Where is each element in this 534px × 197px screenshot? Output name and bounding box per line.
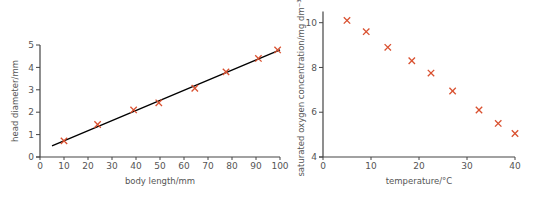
- best-fit-line: [52, 50, 280, 146]
- data-point-x-marker: [61, 138, 67, 144]
- data-point-x-marker: [476, 107, 482, 113]
- x-tick-label: 50: [154, 161, 166, 171]
- x-tick-label: 90: [250, 161, 262, 171]
- data-point-x-marker: [428, 70, 434, 76]
- data-point-x-marker: [495, 120, 501, 126]
- x-tick-label: 0: [37, 161, 43, 171]
- y-axis-title: saturated oxygen concentration/mg dm⁻³: [296, 0, 306, 177]
- x-axis-title: temperature/°C: [386, 176, 453, 186]
- y-tick-label: 5: [28, 40, 34, 50]
- data-point-x-marker: [409, 58, 415, 64]
- x-tick-label: 10: [58, 161, 70, 171]
- x-tick-label: 20: [413, 161, 425, 171]
- oxygen-concentration-chart: 46810010203040temperature/°Csaturated ox…: [296, 0, 521, 186]
- y-tick-label: 0: [28, 152, 34, 162]
- y-axis-title: head diameter/mm: [10, 60, 20, 142]
- x-tick-label: 20: [82, 161, 94, 171]
- x-tick-label: 0: [320, 161, 326, 171]
- x-tick-label: 30: [106, 161, 118, 171]
- x-tick-label: 80: [226, 161, 238, 171]
- x-axis-title: body length/mm: [125, 176, 195, 186]
- x-tick-label: 100: [271, 161, 288, 171]
- x-tick-label: 40: [130, 161, 142, 171]
- y-tick-label: 8: [311, 63, 317, 73]
- y-tick-label: 6: [311, 107, 317, 117]
- y-tick-label: 4: [311, 152, 317, 162]
- data-point-x-marker: [363, 28, 369, 34]
- y-tick-label: 4: [28, 63, 34, 73]
- x-tick-label: 10: [365, 161, 377, 171]
- x-tick-label: 60: [178, 161, 190, 171]
- y-tick-label: 10: [306, 18, 318, 28]
- data-point-x-marker: [385, 44, 391, 50]
- x-tick-label: 70: [202, 161, 214, 171]
- data-point-x-marker: [449, 88, 455, 94]
- x-tick-label: 30: [461, 161, 473, 171]
- head-diameter-chart: 0123450102030405060708090100body length/…: [10, 40, 289, 186]
- data-point-x-marker: [512, 130, 518, 136]
- x-tick-label: 40: [509, 161, 521, 171]
- data-point-x-marker: [344, 17, 350, 23]
- y-tick-label: 1: [28, 130, 34, 140]
- y-tick-label: 3: [28, 85, 34, 95]
- y-tick-label: 2: [28, 107, 34, 117]
